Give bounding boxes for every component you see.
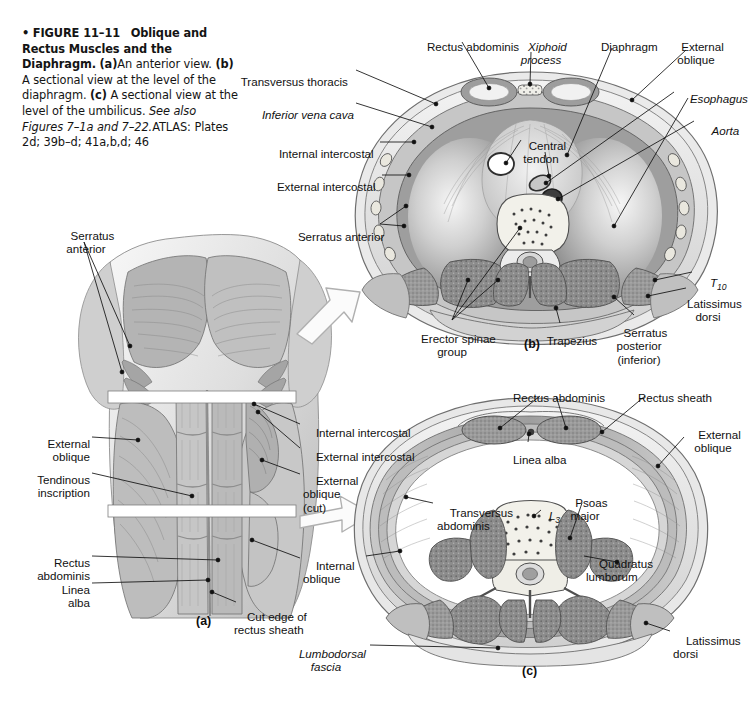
label-c-l3-vertebra: L3 — [536, 496, 560, 541]
figure-root: • FIGURE 11–11 Oblique and Rectus Muscle… — [0, 0, 755, 705]
label-c-linea-alba: Linea alba — [500, 440, 566, 480]
label-c-quadratus-lumborum: Quadratus lumborum — [586, 544, 653, 597]
arrow-to-panel-b — [297, 288, 360, 344]
label-b-external-intercostal: External intercostal — [264, 167, 375, 207]
caption-bullet: • — [22, 26, 29, 40]
label-b-xiphoid-process: Xiphoid process — [510, 27, 572, 80]
panel-a-leaders — [84, 242, 300, 602]
label-a-linea-alba: Linea alba — [12, 570, 90, 623]
panel-b-letter: (b) — [524, 337, 540, 351]
figure-number: FIGURE 11–11 — [33, 26, 120, 40]
label-b-rectus-abdominis: Rectus abdominis — [414, 27, 519, 67]
label-a-serratus-anterior: Serratus anterior — [48, 216, 124, 269]
panel-a-illustration — [78, 235, 331, 618]
label-c-rectus-abdominis: Rectus abdominis — [500, 378, 605, 418]
label-a-tendinous-inscription: Tendinous inscription — [2, 460, 90, 513]
label-c-psoas-major: Psoas major — [560, 483, 610, 536]
label-b-trapezius: Trapezius — [534, 321, 597, 361]
section-level-bar-b — [108, 391, 296, 403]
caption-text-a: An anterior view. — [117, 57, 212, 71]
label-b-latissimus-dorsi: Latissimus dorsi — [668, 284, 748, 337]
label-b-inferior-vena-cava: Inferior vena cava — [249, 95, 354, 135]
figure-caption: • FIGURE 11–11 Oblique and Rectus Muscle… — [22, 26, 240, 151]
label-b-erector-spinae-group: Erector spinae group — [396, 319, 508, 372]
label-c-rectus-sheath: Rectus sheath — [625, 378, 712, 418]
label-c-transversus-abdominis: Transversus abdominis — [437, 493, 513, 546]
label-b-central-tendon: Central tendon — [510, 126, 572, 179]
label-a-internal-oblique: Internal oblique — [303, 546, 355, 599]
label-a-external-oblique-cut: External oblique (cut) — [303, 461, 358, 527]
label-b-aorta: Aorta — [699, 111, 739, 151]
label-b-external-oblique: External oblique — [664, 27, 728, 80]
panel-a-letter: (a) — [196, 614, 211, 628]
label-c-external-oblique: External oblique — [680, 415, 746, 468]
panel-b-illustration — [355, 42, 717, 344]
label-c-latissimus-dorsi: Latissimus dorsi — [673, 621, 741, 674]
label-b-serratus-posterior-inferior: Serratus posterior (inferior) — [600, 313, 678, 379]
caption-marker-c: (c) — [90, 88, 107, 102]
label-b-diaphragm: Diaphragm — [588, 27, 658, 67]
caption-marker-a: (a) — [100, 57, 118, 71]
label-c-lumbodorsal-fascia: Lumbodorsal fascia — [283, 634, 369, 687]
section-level-bar-c — [108, 505, 296, 517]
panel-c-letter: (c) — [522, 664, 537, 678]
label-b-serratus-anterior: Serratus anterior — [285, 217, 384, 257]
